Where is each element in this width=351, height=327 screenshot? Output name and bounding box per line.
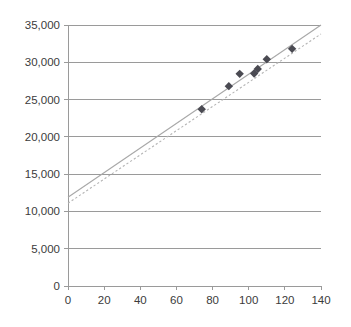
y-tick-label: 35,000 <box>25 19 60 31</box>
x-axis <box>68 286 321 290</box>
y-tick-label: 15,000 <box>25 168 60 180</box>
y-tick-label: 0 <box>54 280 60 292</box>
x-tick-label: 60 <box>170 294 183 306</box>
x-tick-label: 80 <box>206 294 219 306</box>
y-tick-label: 10,000 <box>25 205 60 217</box>
y-axis <box>64 25 68 286</box>
trend-line-solid <box>68 25 321 197</box>
x-tick-label: 140 <box>311 294 330 306</box>
x-tick-labels: 020406080100120140 <box>65 294 331 306</box>
chart-container: 05,00010,00015,00020,00025,00030,00035,0… <box>0 0 351 327</box>
y-tick-label: 30,000 <box>25 56 60 68</box>
y-tick-label: 25,000 <box>25 94 60 106</box>
x-tick-label: 120 <box>275 294 294 306</box>
data-point-marker <box>235 70 243 78</box>
trend-line-dotted <box>68 34 321 203</box>
x-tick-label: 20 <box>98 294 111 306</box>
y-tick-label: 20,000 <box>25 131 60 143</box>
x-tick-label: 100 <box>239 294 258 306</box>
x-tick-label: 40 <box>134 294 147 306</box>
trend-line-dotted <box>68 34 321 203</box>
trend-line-solid <box>68 25 321 197</box>
scatter-chart: 05,00010,00015,00020,00025,00030,00035,0… <box>0 0 351 327</box>
grid-lines <box>68 25 321 249</box>
x-tick-label: 0 <box>65 294 71 306</box>
data-markers <box>198 45 297 114</box>
y-tick-labels: 05,00010,00015,00020,00025,00030,00035,0… <box>25 19 60 292</box>
y-tick-label: 5,000 <box>31 243 60 255</box>
